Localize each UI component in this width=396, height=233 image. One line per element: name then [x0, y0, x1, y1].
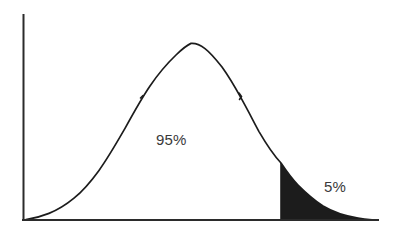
distribution-chart-svg [0, 0, 396, 233]
normal-distribution-figure: 95% 5% [0, 0, 396, 233]
bell-curve-path [26, 43, 372, 219]
label-95-percent: 95% [156, 132, 187, 147]
label-5-percent: 5% [324, 179, 346, 194]
